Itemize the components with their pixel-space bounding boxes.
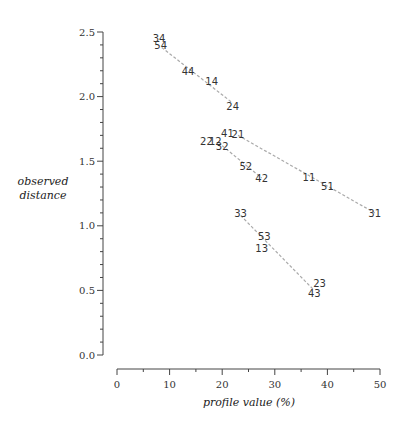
dashed-connector (241, 215, 315, 290)
point-label: 11 (303, 172, 316, 183)
y-tick-label: 0.5 (79, 285, 95, 296)
x-tick-label: 40 (321, 379, 334, 390)
point-label: 24 (226, 101, 239, 112)
point-label: 13 (255, 243, 268, 254)
x-tick-label: 50 (374, 379, 387, 390)
point-label: 31 (368, 208, 381, 219)
x-tick-label: 20 (216, 379, 229, 390)
x-axis: 01020304050 (114, 369, 387, 390)
point-label: 44 (182, 66, 195, 77)
dashed-connector (162, 48, 233, 104)
point-labels: 3454441424412122123252421151313353132343 (153, 33, 381, 299)
x-tick-label: 30 (268, 379, 281, 390)
point-label: 52 (240, 161, 253, 172)
point-label: 53 (258, 231, 271, 242)
y-tick-label: 2.0 (79, 91, 95, 102)
x-axis-title: profile value (%) (203, 396, 295, 409)
point-label: 32 (216, 141, 229, 152)
point-label: 42 (255, 173, 268, 184)
scatter-chart: 0.00.51.01.52.02.5 01020304050 345444142… (0, 0, 413, 425)
y-tick-label: 1.0 (79, 220, 95, 231)
y-tick-label: 0.0 (79, 350, 95, 361)
y-axis-title-line2: distance (20, 189, 67, 202)
point-label: 21 (232, 129, 245, 140)
y-axis-title-line1: observed (18, 175, 69, 188)
y-tick-label: 1.5 (79, 156, 95, 167)
y-tick-label: 2.5 (79, 27, 95, 38)
y-axis: 0.00.51.01.52.02.5 (79, 27, 103, 361)
x-tick-label: 0 (114, 379, 120, 390)
connecting-lines (162, 48, 375, 291)
point-label: 33 (234, 208, 247, 219)
point-label: 51 (321, 181, 334, 192)
x-tick-label: 10 (163, 379, 176, 390)
point-label: 54 (154, 40, 167, 51)
point-label: 14 (205, 76, 218, 87)
point-label: 43 (308, 288, 321, 299)
